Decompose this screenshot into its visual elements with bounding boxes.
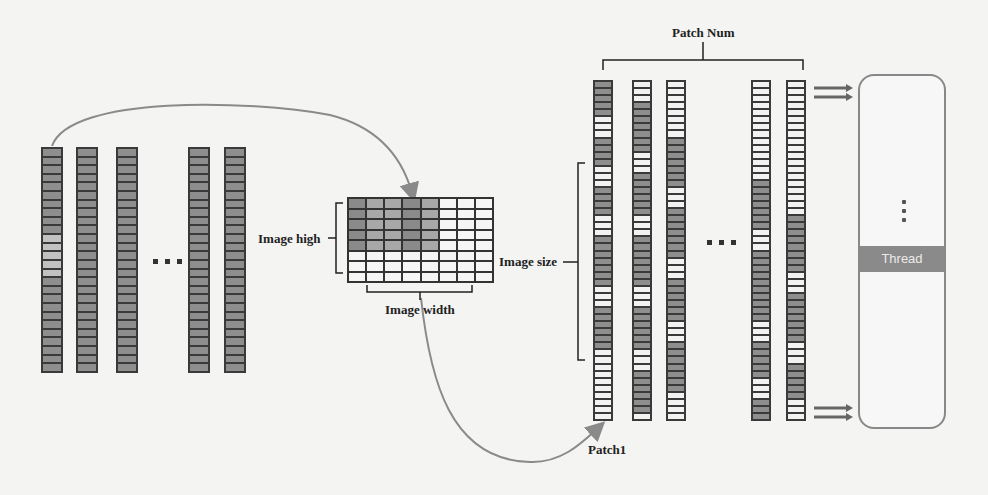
- column-cell: [595, 89, 611, 94]
- column-cell: [753, 167, 769, 172]
- column-cell: [78, 201, 96, 208]
- column-cell: [190, 218, 208, 225]
- column-cell: [226, 321, 244, 328]
- column-cell: [190, 364, 208, 371]
- column-cell: [668, 322, 684, 327]
- column-cell: [788, 160, 804, 165]
- column-cell: [788, 89, 804, 94]
- column-cell: [190, 158, 208, 165]
- column-cell: [668, 223, 684, 228]
- column-cell: [788, 237, 804, 242]
- column-cell: [753, 181, 769, 186]
- patch1-label: Patch1: [588, 442, 626, 458]
- column-cell: [78, 209, 96, 216]
- column-cell: [78, 235, 96, 242]
- column-cell: [634, 372, 650, 377]
- grid-cell: [458, 262, 474, 271]
- column-cell: [788, 202, 804, 207]
- column-cell: [788, 188, 804, 193]
- column-cell: [118, 192, 136, 199]
- column: [593, 80, 613, 421]
- column-cell: [788, 252, 804, 257]
- column-cell: [118, 201, 136, 208]
- column-cell: [788, 280, 804, 285]
- column-cell: [190, 321, 208, 328]
- thread-bar: Thread: [860, 246, 944, 272]
- grid-cell: [422, 231, 438, 240]
- column-cell: [118, 166, 136, 173]
- column-cell: [595, 223, 611, 228]
- grid-cell: [422, 241, 438, 250]
- column-cell: [788, 103, 804, 108]
- column-cell: [595, 216, 611, 221]
- column-cell: [43, 364, 61, 371]
- grid-cell: [403, 199, 419, 208]
- column-cell: [668, 315, 684, 320]
- column-cell: [226, 166, 244, 173]
- column-cell: [190, 287, 208, 294]
- column-cell: [634, 336, 650, 341]
- grid-cell: [422, 273, 438, 282]
- column-cell: [634, 244, 650, 249]
- column-cell: [788, 146, 804, 151]
- column-cell: [226, 244, 244, 251]
- column-cell: [118, 261, 136, 268]
- column-cell: [634, 209, 650, 214]
- column-cell: [668, 216, 684, 221]
- column-cell: [788, 407, 804, 412]
- column-cell: [595, 308, 611, 313]
- column: [224, 147, 246, 373]
- grid-cell: [422, 199, 438, 208]
- patch-num-label: Patch Num: [672, 25, 734, 41]
- column-cell: [788, 379, 804, 384]
- column-cell: [788, 195, 804, 200]
- grid-cell: [476, 231, 492, 240]
- column-cell: [788, 329, 804, 334]
- column-cell: [753, 372, 769, 377]
- column-cell: [753, 237, 769, 242]
- column-cell: [668, 379, 684, 384]
- column-cell: [753, 301, 769, 306]
- column-cell: [668, 237, 684, 242]
- column-cell: [78, 270, 96, 277]
- column-cell: [634, 301, 650, 306]
- column-cell: [753, 343, 769, 348]
- column-cell: [226, 364, 244, 371]
- grid-cell: [440, 262, 456, 271]
- column-cell: [78, 183, 96, 190]
- grid-cell: [403, 262, 419, 271]
- column-cell: [595, 280, 611, 285]
- column-cell: [78, 287, 96, 294]
- column-cell: [668, 103, 684, 108]
- grid-cell: [349, 199, 365, 208]
- column-cell: [190, 201, 208, 208]
- column-cell: [190, 356, 208, 363]
- grid-cell: [367, 241, 383, 250]
- column-cell: [595, 273, 611, 278]
- column-cell: [118, 347, 136, 354]
- column-cell: [634, 146, 650, 151]
- grid-cell: [458, 231, 474, 240]
- column-cell: [595, 146, 611, 151]
- column-cell: [78, 218, 96, 225]
- column-cell: [595, 252, 611, 257]
- column-cell: [118, 252, 136, 259]
- grid-cell: [349, 210, 365, 219]
- column-cell: [634, 280, 650, 285]
- column-cell: [190, 235, 208, 242]
- column-cell: [118, 304, 136, 311]
- grid-cell: [367, 210, 383, 219]
- grid-cell: [349, 262, 365, 271]
- grid-cell: [385, 210, 401, 219]
- column-cell: [595, 357, 611, 362]
- column-cell: [753, 209, 769, 214]
- column-cell: [668, 287, 684, 292]
- column: [666, 80, 686, 421]
- column-cell: [43, 287, 61, 294]
- column-cell: [595, 181, 611, 186]
- image-size-label: Image size: [499, 254, 557, 270]
- column-cell: [226, 278, 244, 285]
- column-cell: [634, 308, 650, 313]
- column-cell: [595, 237, 611, 242]
- column-cell: [753, 386, 769, 391]
